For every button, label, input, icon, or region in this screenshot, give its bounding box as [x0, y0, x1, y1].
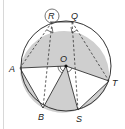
label-a: A: [8, 64, 15, 74]
label-r: R: [48, 11, 55, 21]
angle-arc-o-right: [68, 68, 72, 72]
label-o: O: [60, 54, 67, 64]
label-b: B: [38, 112, 44, 122]
circle-diagram: R Q O A T B S: [0, 0, 125, 129]
center-point-o: [64, 64, 67, 67]
angle-arc-o-left: [60, 66, 63, 71]
chord-ab: [20, 68, 43, 108]
label-t: T: [112, 78, 119, 88]
chord-st: [78, 81, 109, 110]
diagram-frame: R Q O A T B S: [0, 0, 125, 129]
angle-mark-q: [71, 27, 77, 33]
label-s: S: [76, 114, 82, 124]
angle-mark-r: [47, 27, 53, 33]
label-q: Q: [71, 11, 78, 21]
